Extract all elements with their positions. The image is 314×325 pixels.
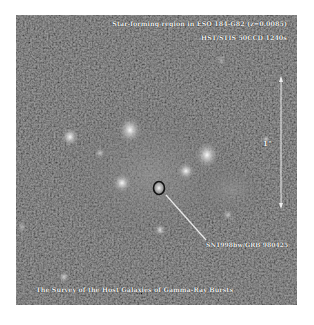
bright-knot: [195, 141, 219, 169]
image-title: Star-forming region in ESO 184-G82 (z=0.…: [112, 20, 287, 27]
faint-knot: [58, 271, 70, 283]
faint-knot: [94, 147, 106, 159]
bright-knot: [118, 116, 142, 144]
faint-knot: [154, 223, 166, 237]
instrument-label: HST/STIS 50CCD 1240s: [201, 34, 287, 41]
image-canvas: [16, 15, 297, 305]
faint-knot: [17, 221, 27, 233]
bright-knot: [177, 162, 195, 180]
bright-knot: [61, 127, 79, 147]
astronomical-image: Star-forming region in ESO 184-G82 (z=0.…: [16, 15, 297, 305]
scale-label: 1": [263, 139, 272, 148]
bright-knot: [112, 173, 132, 193]
faint-knot: [216, 54, 226, 66]
faint-knot: [222, 209, 234, 221]
survey-caption: The Survey of the Host Galaxies of Gamma…: [36, 286, 233, 293]
sn-grb-label: SN1998bw/GRB 980425: [206, 241, 288, 248]
